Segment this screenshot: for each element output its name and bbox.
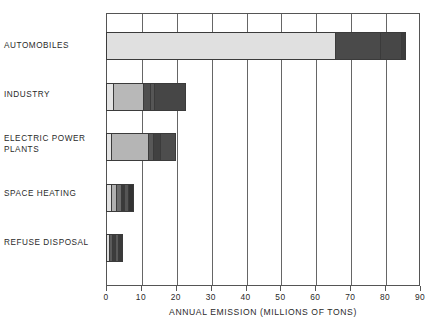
tick-40: [246, 286, 247, 291]
xtick-label-70: 70: [345, 292, 355, 302]
bar-segment-industry-5: [155, 84, 186, 110]
xtick-label-50: 50: [275, 292, 285, 302]
bar-segment-industry-1: [107, 84, 114, 110]
bar-segment-automobiles-3: [381, 33, 402, 59]
tick-60: [315, 286, 316, 291]
bar-segment-electric-power-plants-5: [161, 134, 175, 160]
category-label-electric-power-plants: ELECTRIC POWER PLANTS: [4, 134, 98, 155]
bar-segment-electric-power-plants-4: [154, 134, 161, 160]
tick-70: [350, 286, 351, 291]
xtick-label-30: 30: [206, 292, 216, 302]
tick-80: [385, 286, 386, 291]
bar-segment-space-heating-6: [129, 185, 133, 211]
category-label-automobiles: AUTOMOBILES: [4, 41, 98, 52]
tick-50: [280, 286, 281, 291]
bar-space-heating: [106, 184, 134, 212]
tick-0: [106, 286, 107, 291]
bar-segment-automobiles-2: [336, 33, 381, 59]
bar-electric-power-plants: [106, 133, 176, 161]
tick-30: [211, 286, 212, 291]
bar-segment-industry-2: [114, 84, 145, 110]
bar-segment-automobiles-1: [107, 33, 336, 59]
xtick-label-20: 20: [171, 292, 181, 302]
bar-segment-refuse-disposal-5: [119, 235, 122, 261]
xtick-label-0: 0: [103, 292, 108, 302]
xtick-label-60: 60: [310, 292, 320, 302]
bar-automobiles: [106, 32, 406, 60]
xtick-label-90: 90: [415, 292, 425, 302]
xtick-label-40: 40: [241, 292, 251, 302]
bar-segment-automobiles-4: [402, 33, 405, 59]
category-label-refuse-disposal: REFUSE DISPOSAL: [4, 238, 98, 249]
x-axis-title: ANNUAL EMISSION (MILLIONS OF TONS): [106, 307, 420, 317]
bar-segment-electric-power-plants-2: [112, 134, 149, 160]
tick-20: [176, 286, 177, 291]
category-label-column: AUTOMOBILES INDUSTRY ELECTRIC POWER PLAN…: [0, 0, 104, 327]
xtick-label-80: 80: [380, 292, 390, 302]
tick-90: [420, 286, 421, 291]
bar-segment-industry-3: [144, 84, 151, 110]
emission-bar-chart: AUTOMOBILES INDUSTRY ELECTRIC POWER PLAN…: [0, 0, 432, 327]
xtick-label-10: 10: [136, 292, 146, 302]
category-label-space-heating: SPACE HEATING: [4, 189, 98, 200]
bar-industry: [106, 83, 186, 111]
bar-refuse-disposal: [106, 234, 123, 262]
tick-10: [141, 286, 142, 291]
category-label-industry: INDUSTRY: [4, 90, 98, 101]
